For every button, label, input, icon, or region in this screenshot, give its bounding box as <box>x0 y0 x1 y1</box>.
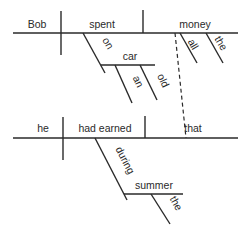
modifier-word-an: an <box>131 73 147 89</box>
relative-subject-word: he <box>37 122 49 134</box>
prep-object-word-summer: summer <box>135 179 173 191</box>
preposition-line-on <box>83 33 105 73</box>
prep-object-word-car: car <box>123 50 138 62</box>
modifier-line-an <box>115 65 132 103</box>
object-word: money <box>179 18 211 30</box>
relative-object-word: that <box>184 122 202 134</box>
relative-clause: he had earned that during summer the <box>13 116 238 224</box>
modifier-line-the-2 <box>151 194 170 224</box>
preposition-word-on: on <box>100 35 116 51</box>
modifier-word-the-2: the <box>168 194 186 213</box>
subject-word: Bob <box>28 18 47 30</box>
preposition-word-during: during <box>113 144 137 176</box>
main-clause: Bob spent money all the on car an old <box>13 10 238 103</box>
relative-verb-word: had earned <box>78 122 131 134</box>
verb-word: spent <box>89 18 115 30</box>
modifier-word-old: old <box>155 71 172 89</box>
modifier-word-all: all <box>186 36 202 51</box>
sentence-diagram: Bob spent money all the on car an old he… <box>0 0 250 234</box>
